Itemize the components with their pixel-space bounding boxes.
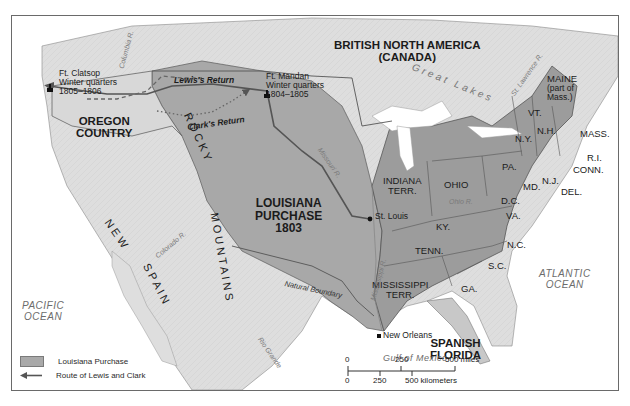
- label-nh: N.H.: [537, 126, 556, 136]
- pacific-line-2: OCEAN: [22, 312, 64, 323]
- label-lewis-return: Lewis's Return: [174, 76, 234, 85]
- st-louis-marker: [368, 217, 373, 222]
- label-ky: KY.: [436, 222, 450, 232]
- scale-km-250: 250: [373, 377, 386, 385]
- new-orleans-marker: [377, 334, 381, 338]
- scale-km-500: 500 kilometers: [405, 377, 457, 385]
- maine-note-2: Mass.): [547, 93, 577, 102]
- louisiana-line-1: LOUISIANA: [255, 197, 322, 210]
- label-vt: VT.: [528, 108, 542, 118]
- scale-km-0: 0: [345, 377, 349, 385]
- label-pa: PA.: [502, 162, 517, 172]
- pacific-line-1: PACIFIC: [22, 301, 64, 312]
- label-ohio: OHIO: [444, 180, 468, 190]
- label-ga: GA.: [461, 284, 477, 294]
- mandan-line-3: 1804–1805: [266, 90, 324, 99]
- label-atlantic-ocean: ATLANTIC OCEAN: [539, 269, 591, 290]
- florida-line-1: SPANISH: [430, 337, 481, 349]
- legend-label-route: Route of Lewis and Clark: [56, 371, 145, 380]
- label-dc: D.C.: [501, 196, 520, 206]
- label-new-orleans: New Orleans: [383, 331, 432, 340]
- oregon-line-2: COUNTRY: [76, 127, 132, 139]
- scale-miles-250: 250: [395, 356, 408, 364]
- label-ri: R.I.: [587, 153, 602, 163]
- label-oregon-country: OREGON COUNTRY: [76, 115, 132, 139]
- label-nc: N.C.: [507, 240, 526, 250]
- map-frame: BRITISH NORTH AMERICA (CANADA) OREGON CO…: [11, 15, 619, 391]
- arrow-left-icon: [20, 371, 44, 380]
- label-indiana-territory: INDIANA TERR.: [383, 176, 422, 196]
- label-nj: N.J.: [542, 176, 559, 186]
- label-pacific-ocean: PACIFIC OCEAN: [22, 301, 64, 322]
- clatsop-line-3: 1805–1806: [59, 87, 117, 96]
- legend-item-louisiana: Louisiana Purchase: [20, 354, 145, 368]
- label-tenn: TENN.: [415, 246, 444, 256]
- atlantic-line-1: ATLANTIC: [539, 269, 591, 280]
- label-va: VA.: [506, 211, 521, 221]
- label-st-louis: St. Louis: [375, 212, 408, 221]
- mississippi-line-2: TERR.: [372, 290, 429, 300]
- legend-label-louisiana: Louisiana Purchase: [58, 357, 128, 366]
- label-sc: S.C.: [488, 261, 506, 271]
- oregon-line-1: OREGON: [76, 115, 132, 127]
- british-line-1: BRITISH NORTH AMERICA: [334, 39, 481, 51]
- louisiana-line-3: 1803: [255, 222, 322, 235]
- legend-item-route: Route of Lewis and Clark: [20, 368, 145, 382]
- label-del: DEL.: [561, 187, 582, 197]
- atlantic-line-2: OCEAN: [539, 280, 591, 291]
- label-ohio-river: Ohio R.: [449, 198, 473, 205]
- scale-miles-0: 0: [345, 356, 349, 364]
- label-conn: CONN.: [573, 165, 604, 175]
- label-maine: MAINE (part of Mass.): [547, 74, 577, 102]
- scale-miles-500: 500 miles: [445, 356, 479, 364]
- label-mass: MASS.: [580, 129, 610, 139]
- indiana-line-2: TERR.: [383, 186, 422, 196]
- label-md: MD.: [523, 182, 540, 192]
- british-line-2: (CANADA): [334, 51, 481, 63]
- gray-swatch-icon: [20, 356, 44, 367]
- label-british-north-america: BRITISH NORTH AMERICA (CANADA): [334, 39, 481, 63]
- label-ny: N.Y.: [515, 134, 532, 144]
- map-legend: Louisiana Purchase Route of Lewis and Cl…: [20, 354, 145, 382]
- label-fort-mandan: Ft. Mandan Winter quarters 1804–1805: [266, 72, 324, 99]
- label-fort-clatsop: Ft. Clatsop Winter quarters 1805–1806: [59, 69, 117, 96]
- label-louisiana-purchase: LOUISIANA PURCHASE 1803: [255, 197, 322, 235]
